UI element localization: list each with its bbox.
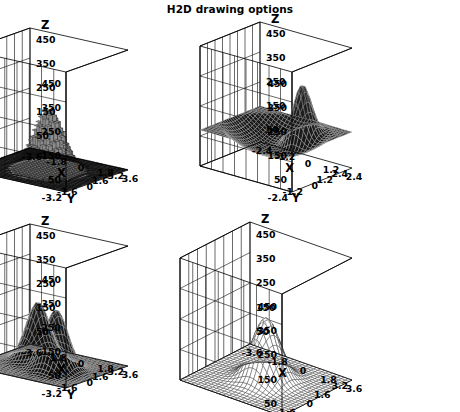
x-tick: -1.8 [267,356,288,367]
z-tick-right: 250 [256,277,276,288]
z-tick-right: 450 [256,229,276,240]
x-axis-title: X [278,366,287,380]
z-tick-right: 250 [266,76,286,87]
z-tick-right: 350 [266,52,286,63]
x-tick: 3.6 [122,173,139,184]
z-tick-left: 50 [274,174,288,185]
y-tick: 1.6 [314,389,331,400]
x-tick: 0 [78,162,85,173]
x-tick: 0 [305,158,312,169]
z-tick-right: 150 [36,302,56,313]
x-tick: 1.8 [320,374,337,385]
plot-pad-bottom-right: 5015025035045045035025015050Z-3.2-1.601.… [230,208,460,412]
x-axis-title: X [57,362,66,376]
x-tick: 1.8 [97,363,114,374]
z-tick-right: 450 [36,34,56,45]
x-tick: -2.4 [252,145,273,156]
z-tick-right: 150 [256,302,276,313]
x-tick: 1.8 [97,167,114,178]
z-axis-title: Z [261,212,269,226]
plot-pad-top-right[interactable]: 5015025035045045035025015050Z-2.4-1.201.… [230,18,460,208]
z-axis-title: Z [271,12,279,26]
plot-pad-top-left: 5015025035045045035025015050Z-3.2-1.601.… [0,18,230,208]
x-tick: 1.2 [323,164,340,175]
z-tick-right: 150 [266,100,286,111]
z-tick-right: 450 [36,230,56,241]
z-tick-right: 250 [36,278,56,289]
x-tick: 0 [78,358,85,369]
plot-pad-bottom-right[interactable]: 5015025035045045035025015050Z-3.2-1.601.… [230,208,460,412]
x-tick: 0 [300,365,307,376]
x-tick: -3.6 [22,347,43,358]
z-tick-right: 450 [266,28,286,39]
z-axis-title: Z [41,18,49,32]
y-axis-title: Y [66,192,76,206]
x-tick: -3.6 [242,347,263,358]
z-tick-right: 350 [36,254,56,265]
z-tick-right: 50 [256,326,270,337]
plot-pad-top-right: 5015025035045045035025015050Z-2.4-1.201.… [230,18,460,208]
z-tick-left: 150 [257,374,277,385]
z-tick-right: 150 [36,106,56,117]
z-tick-right: 350 [36,58,56,69]
x-axis-title: X [57,166,66,180]
z-tick-right: 50 [266,124,280,135]
x-tick: -3.6 [22,151,43,162]
plot-pad-top-left[interactable]: 5015025035045045035025015050Z-3.2-1.601.… [0,18,230,208]
z-tick-right: 50 [36,326,50,337]
z-axis-title: Z [41,214,49,228]
x-axis-title: X [285,161,294,175]
y-axis-title: Y [291,191,301,205]
page-title: H2D drawing options [0,2,460,16]
z-tick-right: 350 [256,253,276,264]
y-axis-title: Y [66,388,76,402]
z-tick-right: 50 [36,130,50,141]
x-tick: 2.4 [346,171,363,182]
y-tick: 0 [306,398,313,409]
z-tick-right: 250 [36,82,56,93]
x-tick: 3.6 [122,369,139,380]
x-tick: 3.6 [346,383,363,394]
